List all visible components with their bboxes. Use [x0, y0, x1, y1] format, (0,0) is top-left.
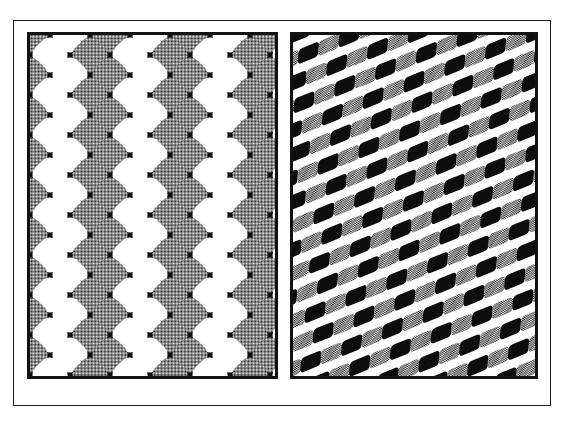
- pattern-plate-right: [290, 32, 538, 379]
- sheared-checkerboard-lattice-graphic: [293, 35, 535, 376]
- pattern-plate-right-canvas: [293, 35, 535, 376]
- pattern-plate-left: [27, 32, 278, 379]
- pattern-plate-left-canvas: [30, 35, 275, 376]
- pattern-plate-row: [27, 32, 538, 379]
- page-ghost-caption: · · · ·: [0, 1, 565, 8]
- figure-page: · · · ·: [0, 0, 565, 422]
- checkerboard-lattice-graphic: [30, 35, 275, 376]
